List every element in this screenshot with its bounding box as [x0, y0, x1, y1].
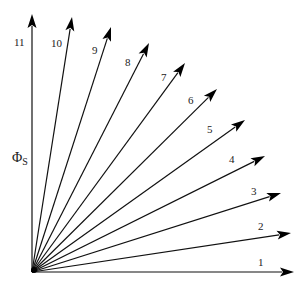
vector-11 — [28, 14, 37, 272]
vector-label: 10 — [51, 37, 63, 49]
arrowhead-icon — [139, 43, 149, 58]
arrowhead-icon — [250, 156, 265, 166]
vector-shaft — [32, 97, 208, 272]
vector-shaft — [32, 73, 178, 272]
vector-5 — [32, 120, 245, 272]
vector-label: 5 — [207, 123, 213, 135]
arrowhead-icon — [280, 268, 294, 277]
arrowhead-icon — [231, 120, 245, 132]
vector-label: 6 — [188, 94, 194, 106]
vector-label: 2 — [258, 220, 264, 232]
vector-label: 8 — [125, 56, 131, 68]
vector-label: 9 — [92, 44, 98, 56]
vector-shaft — [32, 38, 107, 272]
vector-shaft — [32, 127, 235, 272]
vector-1 — [32, 268, 294, 277]
vector-label: 1 — [258, 256, 264, 268]
phi-s-axis-label: ΦS — [12, 150, 28, 167]
vector-6 — [32, 89, 217, 272]
vector-label: 4 — [229, 153, 235, 165]
vector-7 — [32, 63, 185, 272]
vector-9 — [32, 27, 111, 272]
vector-label: 3 — [251, 185, 257, 197]
vector-label: 7 — [161, 71, 167, 83]
origin-point — [31, 267, 37, 273]
vector-label: 11 — [14, 36, 25, 48]
vector-2 — [32, 231, 291, 272]
arrowhead-icon — [28, 14, 37, 28]
vector-3 — [32, 193, 281, 272]
vector-rays — [28, 14, 295, 277]
vector-fan-diagram: 1234567891011 ΦS — [0, 0, 308, 289]
vector-10 — [32, 17, 74, 272]
arrowhead-icon — [173, 63, 185, 77]
vector-shaft — [32, 197, 270, 272]
